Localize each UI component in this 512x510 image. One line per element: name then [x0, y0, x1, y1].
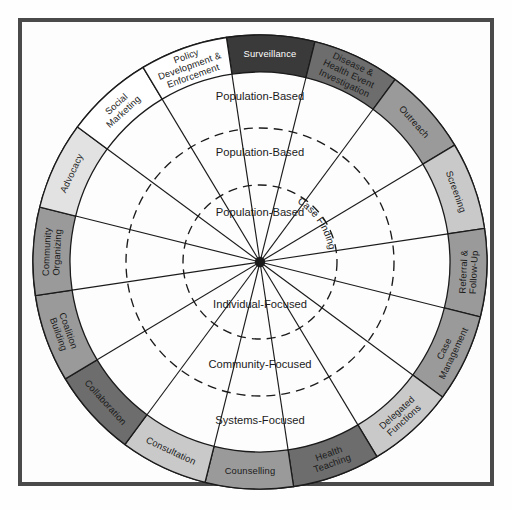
segment-label: Referral &Follow-Up: [456, 249, 480, 294]
ring-label-top: Population-Based: [216, 90, 304, 102]
intervention-wheel: SurveillanceDisease &Health EventInvesti…: [0, 0, 512, 510]
ring-label-bottom: Individual-Focused: [213, 298, 307, 310]
hub-dot: [255, 257, 265, 267]
page-canvas: SurveillanceDisease &Health EventInvesti…: [0, 0, 512, 510]
ring-label-top: Population-Based: [216, 206, 304, 218]
outer-segment[interactable]: Referral &Follow-Up: [444, 228, 487, 316]
segment-label: Surveillance: [244, 48, 297, 59]
ring-label-bottom: Systems-Focused: [215, 414, 305, 426]
ring-label-top: Population-Based: [216, 146, 304, 158]
outer-segment[interactable]: Surveillance: [226, 35, 314, 78]
segment-label: CommunityOrganizing: [40, 227, 64, 277]
outer-segment[interactable]: Counselling: [205, 446, 293, 489]
segment-label: Counselling: [225, 465, 276, 476]
ring-label-bottom: Community-Focused: [208, 358, 311, 370]
outer-segment[interactable]: CommunityOrganizing: [33, 207, 76, 295]
